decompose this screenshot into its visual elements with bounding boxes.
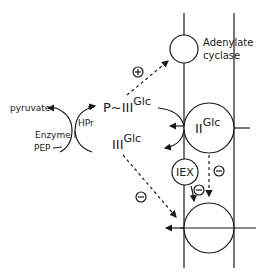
arrow-iex-to-lower	[191, 186, 194, 201]
iex-label: IEX	[176, 166, 194, 179]
adenylate-cyclase-circle	[170, 35, 198, 63]
hpr-label: HPr	[78, 118, 94, 128]
pep-line	[53, 147, 62, 148]
adenylate-cyclase-label-1: Adenylate	[203, 37, 253, 48]
pyruvate-label: pyruvate	[10, 103, 51, 113]
dashed-activation-arrow	[127, 61, 168, 95]
pts-regulation-diagram: Adenylate cyclase IIGlc IEX pyruvate HPr…	[0, 0, 266, 277]
enzyme-i-label: Enzyme I	[35, 130, 76, 140]
p-iii-glc-label: P~IIIGlc	[103, 95, 151, 115]
pep-label: PEP	[34, 143, 51, 153]
iii-glc-label: IIIGlc	[112, 132, 141, 152]
dashed-inhibition-arrow	[123, 155, 176, 217]
curve-iii-out	[165, 130, 184, 148]
adenylate-cyclase-label-2: cyclase	[203, 50, 240, 61]
curve-p-iii-in	[158, 108, 184, 126]
hpr-curve	[75, 107, 94, 152]
